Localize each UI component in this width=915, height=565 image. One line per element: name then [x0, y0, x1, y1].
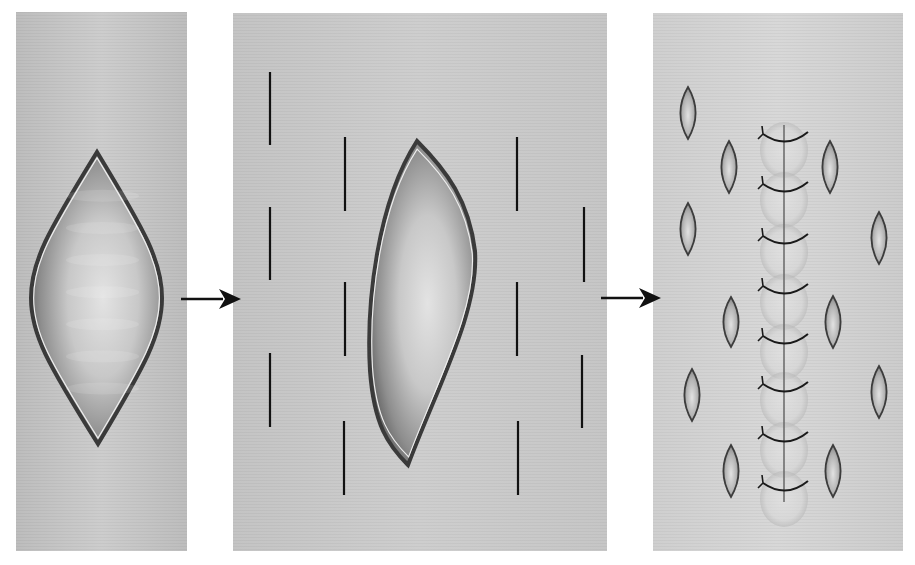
- figure: [0, 0, 915, 565]
- arrow-2-icon: [601, 288, 661, 308]
- arrow-1-icon: [181, 289, 241, 309]
- surgical-diagram: [0, 0, 915, 565]
